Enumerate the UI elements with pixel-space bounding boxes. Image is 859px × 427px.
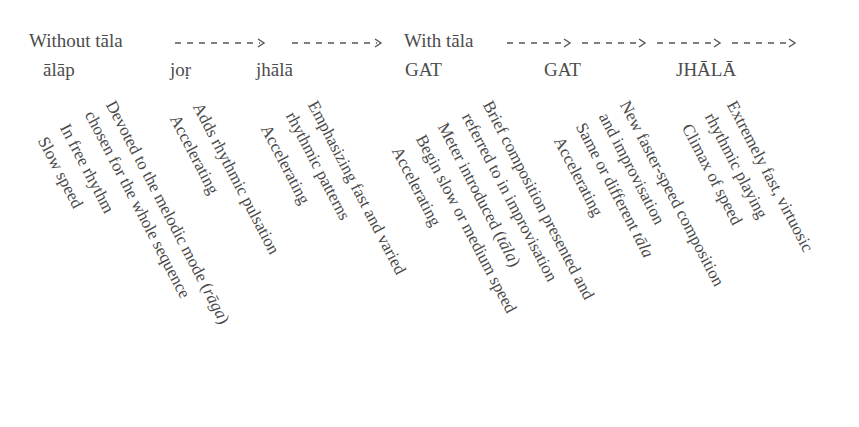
dashed-arrow-icon: [656, 36, 724, 50]
label-without-tala: Without tāla: [29, 31, 123, 50]
dashed-arrow-icon: [506, 36, 574, 50]
stage-gat-2: GAT: [544, 60, 581, 79]
dashed-arrow-icon: [291, 36, 385, 50]
dashed-arrow-icon: [731, 36, 799, 50]
stage-jhala-2: JHĀLĀ: [676, 60, 736, 79]
dashed-arrow-icon: [581, 36, 649, 50]
dashed-arrow-icon: [174, 36, 268, 50]
stage-jor: joṛ: [170, 60, 191, 79]
label-with-tala: With tāla: [404, 31, 473, 50]
stage-gat-1: GAT: [405, 60, 442, 79]
stage-jhala: jhālā: [256, 60, 293, 79]
stage-alap: ālāp: [43, 60, 75, 79]
